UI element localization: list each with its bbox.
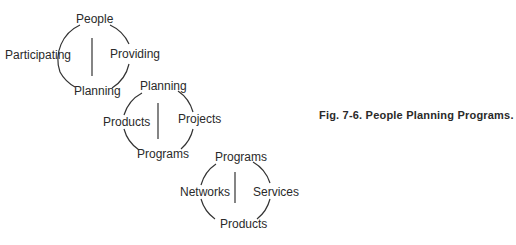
diagram-canvas: People Participating Providing Planning … [0, 0, 516, 245]
label-programs-2: Programs [215, 150, 267, 164]
label-planning-2: Planning [140, 79, 187, 93]
arc-right-bottom [257, 199, 270, 219]
label-products-1: Products [103, 115, 150, 129]
arc-left-bottom [60, 72, 75, 87]
label-projects: Projects [178, 112, 221, 126]
label-providing: Providing [110, 47, 160, 61]
arc-top-right [253, 162, 270, 183]
arc-top-right [110, 25, 129, 44]
label-services: Services [253, 185, 299, 199]
label-networks: Networks [180, 185, 230, 199]
label-products-2: Products [220, 217, 267, 231]
label-planning-1: Planning [74, 84, 121, 98]
arc-left-bottom [201, 199, 215, 219]
arc-top-right [178, 91, 193, 112]
label-people: People [76, 12, 114, 26]
arc-top-left [201, 164, 216, 185]
arc-right-bottom [181, 129, 193, 149]
label-programs-1: Programs [137, 147, 189, 161]
label-participating: Participating [5, 48, 71, 62]
arc-top-left [124, 93, 142, 115]
figure-caption: Fig. 7-6. People Planning Programs. [319, 109, 514, 121]
